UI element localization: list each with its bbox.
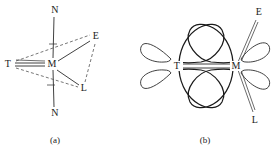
bond-e-to-l-dashed xyxy=(85,44,95,82)
atom-label-l-lower: L xyxy=(249,115,261,125)
caption-b: (b) xyxy=(198,136,212,145)
bond-m-to-l xyxy=(238,70,253,112)
orbital-t-outer-upper xyxy=(141,44,171,63)
bond-m-to-e xyxy=(238,20,256,62)
atom-label-e-upper: E xyxy=(253,7,265,17)
atom-label-m-right: M xyxy=(230,61,242,71)
bond-t-to-m-line-3 xyxy=(16,60,45,61)
bond-n-top-to-m xyxy=(53,17,54,58)
bond-m-to-l xyxy=(57,70,79,85)
panel-a-coordination-geometry: N T M E L N (a) xyxy=(0,0,138,153)
caption-a: (a) xyxy=(48,136,62,145)
bond-m-to-n-bottom xyxy=(53,70,54,107)
atom-label-n-bottom: N xyxy=(49,108,61,118)
figure-root: N T M E L N (a) xyxy=(0,0,275,153)
panel-a-drawing xyxy=(0,0,138,153)
atom-label-n-top: N xyxy=(49,5,61,15)
orbital-t-outer-lower xyxy=(141,70,171,89)
atom-label-l-lower: L xyxy=(78,83,90,93)
atom-label-e-upper: E xyxy=(90,31,102,41)
orbital-m-outer-lower xyxy=(241,70,270,89)
panel-b-orbital-overlap: T M E L (b) xyxy=(138,0,275,153)
atom-label-t-left: T xyxy=(171,61,183,71)
bond-m-to-l-inner xyxy=(241,70,255,110)
bond-m-to-e-inner xyxy=(241,22,258,62)
bond-m-to-e xyxy=(58,41,90,61)
panel-b-drawing xyxy=(138,0,275,153)
atom-label-t-left: T xyxy=(2,59,14,69)
atom-label-m-center: M xyxy=(46,59,58,69)
